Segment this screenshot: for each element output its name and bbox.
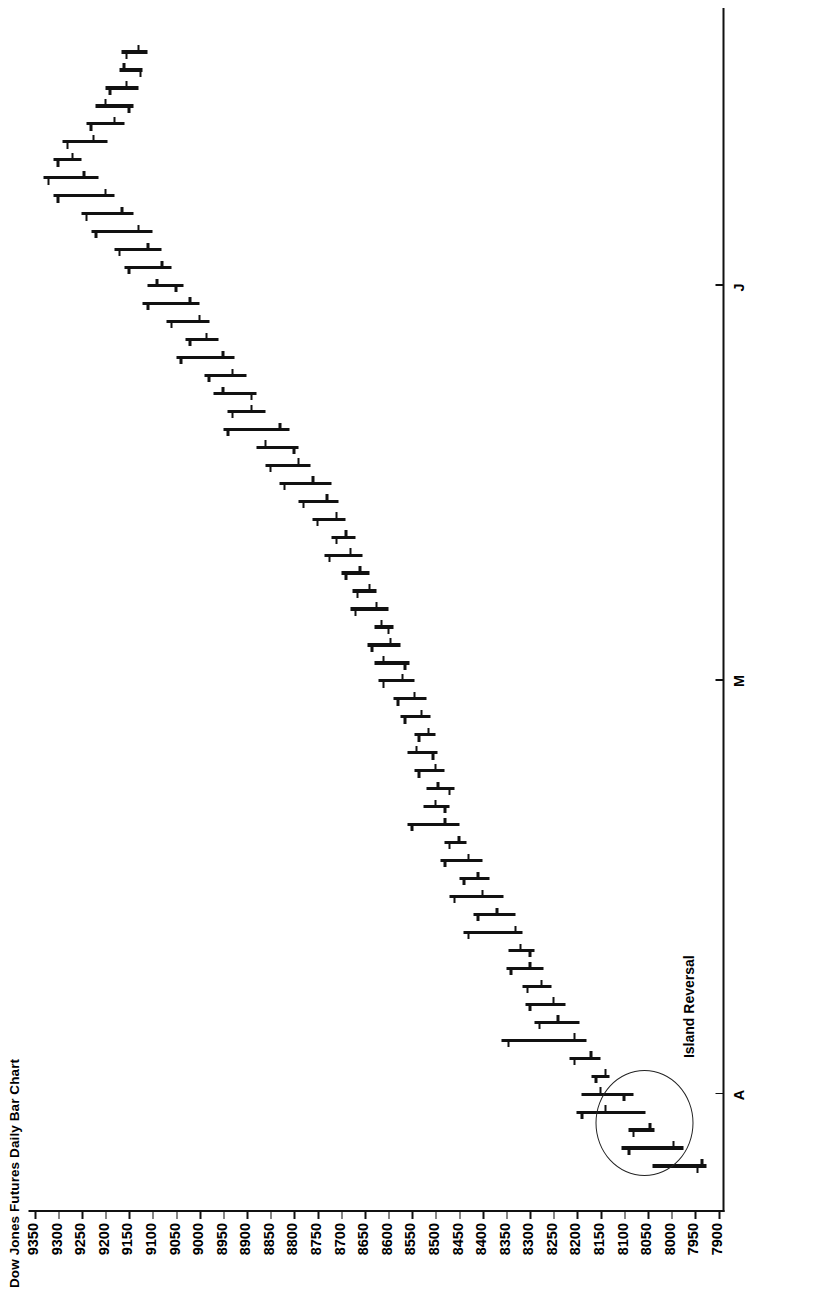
bar-open-tick [179, 357, 182, 364]
bar-close-tick [481, 890, 484, 897]
price-tick-label: 9000 [189, 1223, 205, 1255]
bar-close-tick [368, 584, 371, 591]
bar-open-tick [127, 268, 130, 275]
bar-close-tick [264, 441, 267, 448]
bar-close-tick [198, 315, 201, 322]
bar-open-tick [89, 124, 92, 131]
bar-high-low-range [91, 230, 152, 233]
bar-open-tick [170, 322, 173, 329]
price-tick [411, 1212, 413, 1219]
date-tick [715, 284, 723, 286]
bar-high-low-range [81, 212, 133, 215]
bar-close-tick [325, 494, 328, 501]
bar-open-tick [507, 1040, 510, 1047]
bar-close-tick [344, 530, 347, 537]
price-tick [223, 1212, 225, 1219]
price-tick-label: 9100 [142, 1223, 158, 1255]
bar-close-tick [92, 135, 95, 142]
bar-close-tick [540, 980, 543, 987]
bar-close-tick [278, 423, 281, 430]
bar-high-low-range [279, 482, 331, 485]
bar-close-tick [113, 117, 116, 124]
bar-close-tick [420, 710, 423, 717]
bar-open-tick [174, 286, 177, 293]
bar-high-low-range [124, 266, 171, 269]
bar-open-tick [526, 986, 529, 993]
bar-open-tick [302, 501, 305, 508]
price-tick [647, 1212, 649, 1219]
price-tick-label: 8800 [283, 1223, 299, 1255]
date-tick [715, 1093, 723, 1095]
bar-open-tick [538, 1022, 541, 1029]
bar-close-tick [514, 926, 517, 933]
price-tick-label: 8150 [590, 1223, 606, 1255]
price-tick [105, 1212, 107, 1219]
bar-close-tick [382, 656, 385, 663]
bar-close-tick [146, 243, 149, 250]
price-tick [34, 1212, 36, 1219]
bar-open-tick [448, 843, 451, 850]
bar-open-tick [56, 160, 59, 167]
bar-open-tick [387, 627, 390, 634]
price-tick [81, 1212, 83, 1219]
bar-close-tick [476, 872, 479, 879]
bar-open-tick [509, 968, 512, 975]
price-tick [482, 1212, 484, 1219]
price-tick [246, 1212, 248, 1219]
bar-high-low-range [407, 823, 459, 826]
price-tick-label: 8600 [378, 1223, 394, 1255]
bar-open-tick [462, 879, 465, 886]
bar-open-tick [283, 483, 286, 490]
bar-close-tick [160, 261, 163, 268]
price-tick [176, 1212, 178, 1219]
date-tick [715, 679, 723, 681]
price-tick-label: 9300 [48, 1223, 64, 1255]
bar-high-low-range [62, 140, 107, 143]
bar-open-tick [231, 411, 234, 418]
price-tick [506, 1212, 508, 1219]
price-tick-label: 8000 [661, 1223, 677, 1255]
bar-open-tick [410, 825, 413, 832]
bar-open-tick [528, 950, 531, 957]
bar-close-tick [589, 1051, 592, 1058]
bar-open-tick [396, 699, 399, 706]
price-tick [718, 1212, 720, 1219]
price-tick-label: 8350 [496, 1223, 512, 1255]
bar-close-tick [122, 63, 125, 70]
bar-open-tick [146, 304, 149, 311]
bar-close-tick [401, 674, 404, 681]
bar-open-tick [573, 1058, 576, 1065]
bar-open-tick [403, 663, 406, 670]
bar-close-tick [120, 207, 123, 214]
price-tick [364, 1212, 366, 1219]
bar-open-tick [382, 681, 385, 688]
bar-close-tick [427, 728, 430, 735]
bar-close-tick [71, 153, 74, 160]
price-tick-label: 8050 [637, 1223, 653, 1255]
bar-open-tick [47, 178, 50, 185]
bar-open-tick [94, 232, 97, 239]
bar-open-tick [118, 250, 121, 257]
bar-close-tick [104, 99, 107, 106]
price-tick-label: 8200 [566, 1223, 582, 1255]
bar-close-tick [434, 800, 437, 807]
bar-close-tick [413, 692, 416, 699]
bar-open-tick [328, 555, 331, 562]
price-tick [435, 1212, 437, 1219]
price-tick-label: 8950 [213, 1223, 229, 1255]
bar-high-low-range [463, 931, 522, 934]
price-tick-label: 8300 [519, 1223, 535, 1255]
bar-open-tick [250, 393, 253, 400]
bar-close-tick [573, 1033, 576, 1040]
price-tick-label: 8450 [449, 1223, 465, 1255]
date-axis-line [722, 8, 724, 1212]
bar-close-tick [221, 387, 224, 394]
price-tick-label: 8850 [260, 1223, 276, 1255]
bar-open-tick [403, 717, 406, 724]
bar-close-tick [556, 1015, 559, 1022]
bar-open-tick [356, 591, 359, 598]
bar-close-tick [434, 764, 437, 771]
bar-open-tick [453, 897, 456, 904]
price-tick-label: 8500 [425, 1223, 441, 1255]
bar-close-tick [104, 189, 107, 196]
